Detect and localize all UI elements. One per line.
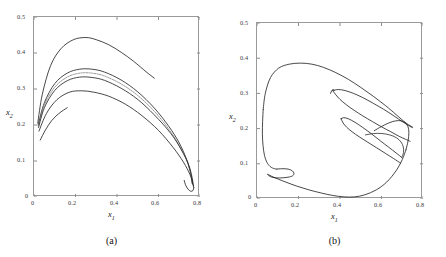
panel-a-ytick-0.1: 0.1	[17, 156, 25, 163]
trajectory-mid-fold-lower	[341, 119, 401, 163]
panel-a-ytick-0.4: 0.4	[17, 48, 25, 55]
panel-b-xtick-0: 0	[254, 201, 257, 208]
panel-a-ytick-0: 0	[25, 192, 28, 199]
trajectory-lowest-stub	[40, 108, 67, 140]
panel-b-xtick-0.2: 0.2	[291, 201, 299, 208]
panel-a-axes	[33, 16, 199, 196]
panel-b-ytick-0.5: 0.5	[240, 19, 248, 26]
panel-a-xtick-0: 0	[31, 199, 34, 206]
panel-a-xtick-0.4: 0.4	[110, 199, 118, 206]
panel-b-axes	[256, 22, 422, 198]
trajectory-inner-lower-arc	[39, 91, 194, 188]
trajectory-lower-sweep	[268, 150, 406, 197]
panel-a-ytick-0.3: 0.3	[17, 84, 25, 91]
figure-two-phase-portraits: 0.5 0.4 0.3 0.2 0.1 0 x2 0 0.2 0.4 0.6 0…	[0, 0, 446, 257]
panel-b-caption: (b)	[223, 235, 446, 246]
panel-b-ytick-0.3: 0.3	[240, 89, 248, 96]
panel-a-xtick-0.6: 0.6	[151, 199, 159, 206]
trajectory-inner-return-strand	[365, 133, 403, 157]
panel-b: 0.5 0.4 0.3 0.2 0.1 0 x2 0 0.2 0.4 0.6 0…	[223, 0, 446, 257]
panel-b-plot-canvas	[257, 23, 423, 199]
panel-a-xtick-0.8: 0.8	[193, 199, 201, 206]
panel-a-xtick-0.2: 0.2	[68, 199, 76, 206]
trajectory-band-dotted-core	[38, 73, 192, 185]
trajectory-outer-upper-arc	[38, 38, 155, 124]
panel-a-y-axis-label: x2	[6, 107, 13, 119]
panel-a-ytick-0.5: 0.5	[17, 13, 25, 20]
trajectory-band-upper-edge	[38, 69, 192, 184]
tick-marks	[257, 23, 423, 199]
trajectory-outer-loop-descend	[262, 109, 277, 169]
tick-marks	[34, 17, 200, 197]
panel-b-x-axis-label: x1	[331, 211, 338, 223]
trajectory-outer-loop	[263, 63, 412, 127]
panel-b-ytick-0.1: 0.1	[240, 159, 248, 166]
panel-b-ytick-0.4: 0.4	[240, 54, 248, 61]
panel-a-caption: (a)	[0, 235, 223, 246]
panel-b-xtick-0.8: 0.8	[416, 201, 424, 208]
panel-a: 0.5 0.4 0.3 0.2 0.1 0 x2 0 0.2 0.4 0.6 0…	[0, 0, 223, 257]
panel-a-ytick-0.2: 0.2	[17, 120, 25, 127]
trajectory-mid-fold-upper	[341, 118, 402, 158]
panel-b-y-axis-label: x2	[229, 111, 236, 123]
panel-a-plot-canvas	[34, 17, 200, 197]
panel-b-ytick-0.2: 0.2	[240, 124, 248, 131]
panel-b-ytick-0: 0	[248, 193, 251, 200]
panel-a-x-axis-label: x1	[108, 209, 115, 221]
panel-b-xtick-0.6: 0.6	[374, 201, 382, 208]
panel-b-xtick-0.4: 0.4	[333, 201, 341, 208]
